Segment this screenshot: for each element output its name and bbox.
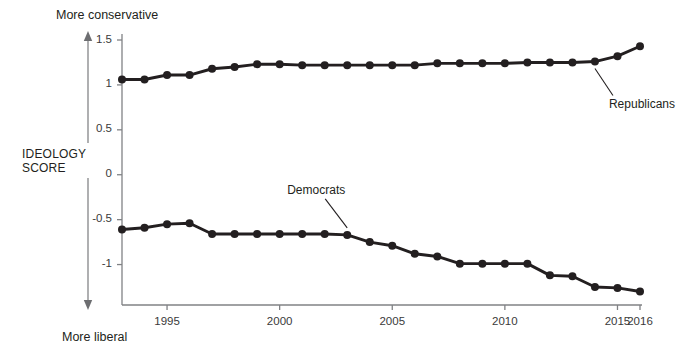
data-point-marker [118, 226, 126, 234]
data-point-marker [636, 42, 644, 50]
data-point-marker [501, 59, 509, 67]
series-annotation-label: Democrats [287, 184, 367, 198]
data-point-marker [388, 242, 396, 250]
data-point-marker [253, 230, 261, 238]
data-point-marker [478, 260, 486, 268]
data-point-marker [568, 272, 576, 280]
series-line [122, 46, 640, 79]
data-point-marker [523, 58, 531, 66]
series-republicans [118, 42, 644, 83]
data-point-marker [321, 61, 329, 69]
x-tick-label: 2016 [615, 315, 665, 328]
data-point-marker [411, 61, 419, 69]
data-point-marker [591, 283, 599, 291]
y-axis-title-line: IDEOLOGY [22, 148, 88, 162]
data-point-marker [523, 260, 531, 268]
data-point-marker [388, 61, 396, 69]
data-point-marker [613, 284, 621, 292]
data-point-marker [186, 71, 194, 79]
y-tick-label: 1.5 [64, 33, 112, 46]
x-tick-label: 2000 [255, 315, 305, 328]
data-point-marker [613, 52, 621, 60]
data-point-marker [163, 220, 171, 228]
data-point-marker [343, 231, 351, 239]
series-democrats [118, 219, 644, 295]
series-line [122, 223, 640, 291]
data-point-marker [343, 61, 351, 69]
data-point-marker [298, 61, 306, 69]
data-point-marker [208, 230, 216, 238]
annotation-leader-line [595, 69, 613, 96]
x-tick-label: 2005 [367, 315, 417, 328]
y-tick-label: -0.5 [64, 212, 112, 225]
data-point-marker [366, 238, 374, 246]
data-point-marker [546, 58, 554, 66]
data-point-marker [456, 260, 464, 268]
y-tick-label: -1 [64, 257, 112, 270]
data-point-marker [501, 260, 509, 268]
x-tick-label: 2010 [480, 315, 530, 328]
data-point-marker [276, 60, 284, 68]
plot-axes [122, 34, 642, 305]
data-point-marker [141, 224, 149, 232]
data-point-marker [253, 60, 261, 68]
data-point-marker [231, 63, 239, 71]
data-point-marker [411, 250, 419, 258]
data-point-marker [456, 59, 464, 67]
data-point-marker [141, 76, 149, 84]
series-annotation-label: Republicans [609, 98, 680, 112]
data-point-marker [208, 65, 216, 73]
x-tick-label: 1995 [142, 315, 192, 328]
data-point-marker [546, 271, 554, 279]
data-point-marker [433, 252, 441, 260]
y-tick-label: 0 [64, 167, 112, 180]
data-point-marker [231, 230, 239, 238]
y-tick-label: 0.5 [64, 122, 112, 135]
data-point-marker [118, 76, 126, 84]
data-point-marker [186, 219, 194, 227]
data-point-marker [568, 58, 576, 66]
data-point-marker [478, 59, 486, 67]
data-point-marker [163, 71, 171, 79]
data-point-marker [636, 288, 644, 296]
y-tick-label: 1 [64, 77, 112, 90]
data-point-marker [321, 230, 329, 238]
data-point-marker [433, 59, 441, 67]
y-axis-bottom-direction-label: More liberal [62, 330, 127, 345]
data-point-marker [591, 58, 599, 66]
annotation-leader-line [325, 199, 347, 228]
data-point-marker [366, 61, 374, 69]
y-axis-top-direction-label: More conservative [56, 8, 158, 23]
data-point-marker [276, 230, 284, 238]
data-point-marker [298, 230, 306, 238]
